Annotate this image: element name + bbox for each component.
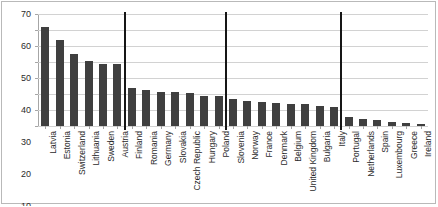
x-tick-mark	[247, 126, 248, 129]
x-tick-mark	[233, 126, 234, 129]
bar	[345, 117, 353, 126]
y-tick-label: 70	[21, 10, 31, 19]
x-tick-label: Finland	[135, 131, 144, 159]
x-tick-label: Sweden	[107, 131, 116, 162]
y-tick-label: 50	[21, 74, 31, 83]
x-tick-mark	[363, 126, 364, 129]
gridline	[38, 94, 428, 95]
bar	[243, 101, 251, 126]
bar	[171, 92, 179, 126]
y-tick-label: 20	[21, 170, 31, 179]
bar	[186, 93, 194, 126]
bar	[215, 96, 223, 126]
x-tick-mark	[74, 126, 75, 129]
x-tick-mark	[161, 126, 162, 129]
bar	[200, 96, 208, 126]
x-tick-mark	[60, 126, 61, 129]
x-tick-label: Greece	[410, 131, 419, 159]
x-tick-mark	[146, 126, 147, 129]
x-tick-mark	[103, 126, 104, 129]
x-tick-label: Luxembourg	[395, 131, 404, 178]
x-tick-mark	[377, 126, 378, 129]
x-tick-label: Romania	[150, 131, 159, 165]
x-tick-label: Latvia	[49, 131, 58, 154]
x-tick-label: Austria	[121, 131, 130, 157]
bar	[229, 99, 237, 126]
x-tick-label: Ireland	[424, 131, 433, 157]
x-tick-label: Estonia	[63, 131, 72, 159]
x-tick-mark	[334, 126, 335, 129]
y-tick-mark: 10	[35, 110, 38, 111]
x-tick-label: Spain	[381, 131, 390, 153]
y-tick-label: 30	[21, 138, 31, 147]
x-tick-mark	[276, 126, 277, 129]
x-tick-label: Poland	[222, 131, 231, 157]
x-tick-mark	[421, 126, 422, 129]
bar	[128, 88, 136, 126]
x-tick-mark	[175, 126, 176, 129]
y-tick-mark: 20	[35, 94, 38, 95]
bar	[272, 103, 280, 126]
x-tick-mark	[132, 126, 133, 129]
x-tick-mark	[320, 126, 321, 129]
y-tick-label: 60	[21, 42, 31, 51]
x-tick-label: Hungary	[208, 131, 217, 163]
bar	[287, 104, 295, 126]
x-tick-label: Portugal	[352, 131, 361, 163]
x-tick-label: Slovakia	[179, 131, 188, 163]
x-tick-mark	[190, 126, 191, 129]
x-tick-mark	[45, 126, 46, 129]
x-tick-label: Norway	[251, 131, 260, 160]
bar	[157, 92, 165, 126]
x-tick-mark	[305, 126, 306, 129]
bar	[316, 106, 324, 126]
x-axis-labels: LatviaEstoniaSwitzerlandLithuaniaSwedenA…	[38, 0, 428, 80]
bar	[330, 107, 338, 126]
x-tick-label: Germany	[164, 131, 173, 166]
x-tick-label: Lithuania	[92, 131, 101, 166]
bar	[359, 119, 367, 126]
x-tick-mark	[291, 126, 292, 129]
x-tick-label: United Kingdom	[309, 131, 318, 191]
x-tick-label: Czech Republic	[193, 131, 202, 191]
bar	[258, 102, 266, 126]
x-tick-mark	[117, 126, 118, 129]
x-tick-label: Italy	[338, 131, 347, 147]
x-tick-mark	[262, 126, 263, 129]
y-tick-label: 40	[21, 106, 31, 115]
bar	[142, 90, 150, 126]
x-tick-label: France	[265, 131, 274, 157]
x-tick-label: Netherlands	[367, 131, 376, 177]
x-tick-mark	[204, 126, 205, 129]
y-tick-mark: 0	[35, 126, 38, 127]
bar	[301, 104, 309, 126]
x-tick-label: Bulgaria	[323, 131, 332, 162]
x-tick-mark	[406, 126, 407, 129]
x-tick-mark	[219, 126, 220, 129]
x-tick-label: Denmark	[280, 131, 289, 165]
x-tick-label: Belgium	[294, 131, 303, 162]
bar-chart: 010203040506070 LatviaEstoniaSwitzerland…	[0, 0, 438, 206]
x-tick-mark	[349, 126, 350, 129]
x-tick-label: Slovenia	[237, 131, 246, 164]
x-tick-mark	[89, 126, 90, 129]
x-tick-label: Switzerland	[78, 131, 87, 175]
y-tick-label: 10	[21, 202, 31, 207]
x-tick-mark	[392, 126, 393, 129]
